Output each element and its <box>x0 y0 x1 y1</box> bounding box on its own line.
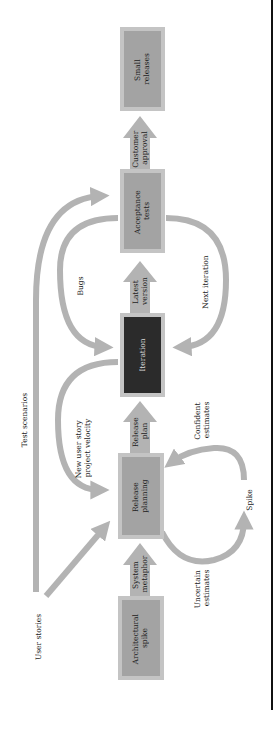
release-planning-label: Release planning <box>131 479 149 513</box>
uncertain-estimates-arrow <box>162 520 244 561</box>
bugs-label: Bugs <box>76 276 85 295</box>
iteration-label: Iteration <box>138 338 147 371</box>
customer-approval-label: Customer approval <box>131 128 149 167</box>
bugs-arrow <box>60 218 118 347</box>
uncertain-estimates-label: Uncertain estimates <box>193 568 211 608</box>
next-iteration-arrow <box>166 218 226 347</box>
user-stories-label: User stories <box>34 614 43 660</box>
new-user-story-label: New user story project velocity <box>74 418 92 478</box>
latest-version-label: Latest version <box>131 277 149 306</box>
xp-process-diagram: Small releases Acceptance tests Iteratio… <box>0 0 278 732</box>
system-metaphor-label: System metaphor <box>131 555 149 592</box>
user-stories-arrow <box>46 528 104 596</box>
confident-estimates-label: Confident estimates <box>193 400 211 440</box>
small-releases-label: Small releases <box>133 53 151 85</box>
confident-estimates-arrow <box>172 448 244 480</box>
page-border-line <box>271 0 273 710</box>
test-scenarios-arrow <box>36 196 100 592</box>
test-scenarios-label: Test scenarios <box>20 393 29 447</box>
spike-label: Spike <box>245 489 254 511</box>
next-iteration-label: Next iteration <box>201 255 210 308</box>
